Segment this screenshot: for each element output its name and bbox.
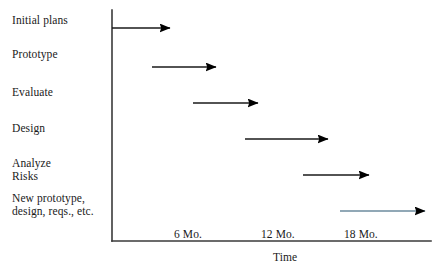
phase-label-new-prototype: New prototype, design, reqs., etc. [12,192,94,217]
phase-label-initial-plans: Initial plans [12,14,68,27]
x-axis-title: Time [273,251,297,264]
waterfall-schedule-figure: Initial plans Prototype Evaluate Design … [0,0,441,276]
x-tick-label-12mo: 12 Mo. [261,228,295,241]
x-tick-label-6mo: 6 Mo. [174,228,202,241]
phase-label-design: Design [12,122,45,135]
phase-label-evaluate: Evaluate [12,86,53,99]
x-tick-label-18mo: 18 Mo. [344,228,378,241]
phase-label-prototype: Prototype [12,48,58,61]
phase-arrows-group [112,28,425,211]
phase-label-analyze-risks: Analyze Risks [12,157,51,182]
axes-group [112,10,431,241]
